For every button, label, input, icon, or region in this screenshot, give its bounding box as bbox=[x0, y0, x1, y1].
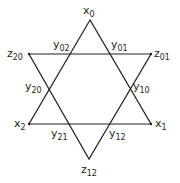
vertex-dot-x1 bbox=[150, 123, 152, 125]
label-x0: x0 bbox=[83, 4, 95, 19]
vertex-dot-x2 bbox=[28, 123, 30, 125]
label-x2: x2 bbox=[14, 117, 26, 132]
label-x1: x1 bbox=[155, 117, 167, 132]
upward-triangle bbox=[29, 20, 151, 124]
label-y21: y21 bbox=[51, 127, 68, 142]
label-y10: y10 bbox=[133, 80, 150, 95]
vertex-dot-z01 bbox=[150, 53, 152, 55]
label-z01: z01 bbox=[154, 47, 170, 62]
vertex-dot-z20 bbox=[28, 53, 30, 55]
hexagram-diagram: x0 y02 y01 z20 z01 y20 y10 x2 x1 y21 y12… bbox=[0, 0, 180, 183]
label-z12: z12 bbox=[81, 163, 97, 178]
downward-triangle bbox=[29, 54, 151, 159]
label-y20: y20 bbox=[25, 80, 42, 95]
label-y02: y02 bbox=[53, 38, 70, 53]
label-y12: y12 bbox=[109, 127, 126, 142]
label-z20: z20 bbox=[7, 47, 23, 62]
label-y01: y01 bbox=[111, 38, 128, 53]
